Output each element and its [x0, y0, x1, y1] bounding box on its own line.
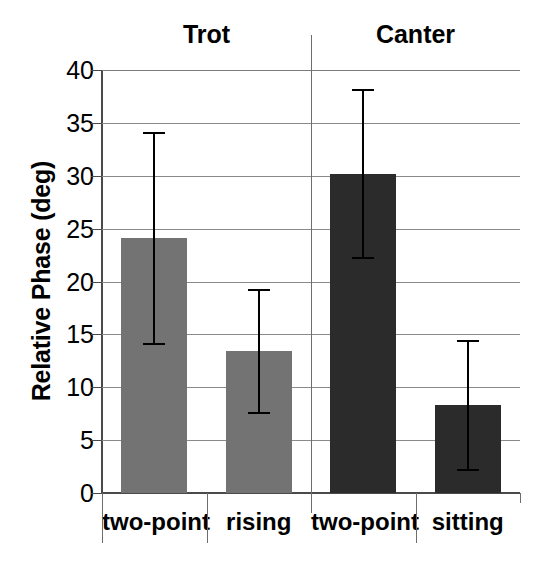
x-axis-label-3: sitting: [416, 510, 521, 534]
x-axis-label-0: two-point: [102, 510, 207, 534]
x-axis-separator-0: [102, 493, 103, 543]
x-axis-separator-4: [520, 493, 521, 503]
x-axis-separator-1: [207, 493, 208, 543]
x-axis-label-2: two-point: [311, 510, 416, 534]
x-axis-separator-3: [416, 493, 417, 543]
x-axis-label-1: rising: [207, 510, 312, 534]
bar-chart-figure: Relative Phase (deg) 0510152025303540 Tr…: [0, 0, 551, 575]
x-axis-layer: two-pointrisingtwo-pointsitting: [0, 0, 551, 575]
